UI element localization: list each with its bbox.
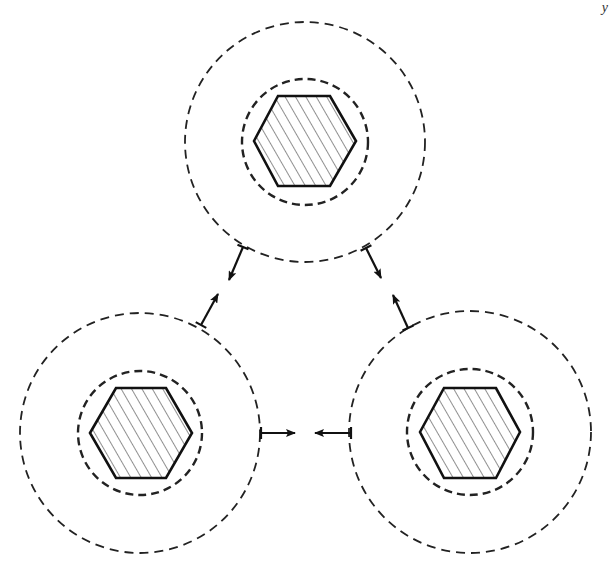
arrow-shaft [393, 295, 408, 328]
arrow-top-to-right [361, 245, 381, 278]
units-layer [20, 22, 591, 553]
arrow-shaft [366, 248, 381, 278]
hatched-hexagon [420, 388, 520, 478]
hatched-hexagon [90, 388, 192, 478]
arrow-left-to-right [261, 427, 295, 439]
hatched-hexagon [254, 96, 356, 186]
unit-top [185, 22, 425, 262]
unit-bottom-left [20, 313, 260, 553]
arrow-left-to-top [196, 294, 218, 328]
three-unit-interaction-diagram [0, 0, 610, 565]
unit-bottom-right [349, 311, 591, 553]
arrow-right-to-left [315, 427, 351, 439]
arrows-layer [196, 245, 414, 439]
arrow-shaft [229, 247, 243, 280]
arrow-shaft [201, 294, 218, 325]
corner-mark: y [602, 0, 608, 16]
arrow-top-to-left [229, 245, 249, 280]
arrow-right-to-top [393, 295, 413, 330]
